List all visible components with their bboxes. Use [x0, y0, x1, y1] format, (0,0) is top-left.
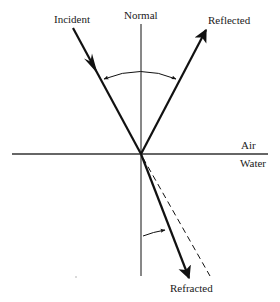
incident-ray: [73, 28, 141, 154]
normal-label: Normal: [124, 10, 158, 21]
incident-label: Incident: [54, 14, 90, 25]
reflection-angle-arc: [104, 72, 176, 80]
incident-arrowhead-icon: [84, 54, 98, 74]
undeviated-path: [143, 158, 210, 276]
refraction-angle-arc: [143, 230, 165, 236]
print-speck: [75, 276, 76, 277]
air-label: Air: [241, 140, 256, 151]
water-label: Water: [240, 158, 266, 169]
reflected-ray: [141, 30, 206, 154]
refracted-label: Refracted: [170, 283, 213, 294]
diagram-canvas: [0, 0, 280, 302]
refraction-diagram: Incident Normal Reflected Air Water Refr…: [0, 0, 280, 302]
reflected-label: Reflected: [208, 15, 250, 26]
refracted-ray: [141, 154, 189, 278]
